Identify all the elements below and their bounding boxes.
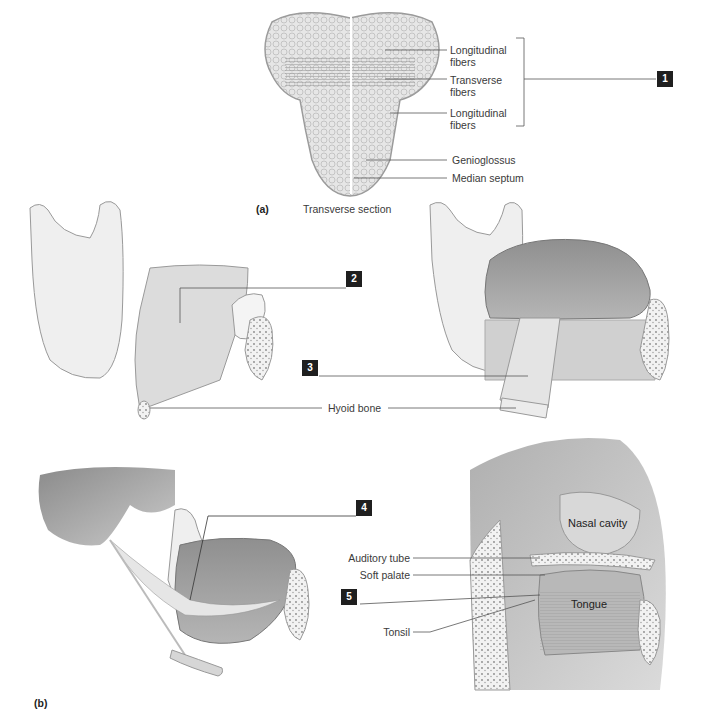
label-median-septum: Median septum <box>452 172 524 184</box>
callout-box-2: 2 <box>346 271 362 287</box>
part-label-a: (a) <box>256 203 269 215</box>
label-nasal-cavity: Nasal cavity <box>568 517 627 529</box>
label-genioglossus: Genioglossus <box>452 154 516 166</box>
transverse-section-drawing <box>265 13 439 196</box>
callout-box-5: 5 <box>341 589 357 605</box>
label-longitudinal-fibers-lower: Longitudinal fibers <box>450 107 507 131</box>
tongue-right-drawing <box>430 202 669 418</box>
label-soft-palate: Soft palate <box>340 569 410 581</box>
skull-base-left-drawing <box>39 467 309 676</box>
callout-box-4: 4 <box>356 500 372 516</box>
anatomy-illustration <box>0 0 703 720</box>
label-tongue: Tongue <box>571 598 607 610</box>
label-tonsil: Tonsil <box>340 626 410 638</box>
tongue-muscles-figure: Longitudinal fibers Transverse fibers Lo… <box>0 0 703 720</box>
label-auditory-tube: Auditory tube <box>340 552 410 564</box>
sagittal-section-drawing <box>470 438 666 690</box>
label-hyoid-bone: Hyoid bone <box>328 402 381 414</box>
mandible-left-drawing <box>30 201 273 419</box>
caption-transverse-section: Transverse section <box>303 203 391 215</box>
part-label-b: (b) <box>34 697 47 709</box>
label-transverse-fibers: Transverse fibers <box>450 74 502 98</box>
callout-box-3: 3 <box>302 360 318 376</box>
label-longitudinal-fibers-upper: Longitudinal fibers <box>450 44 507 68</box>
callout-box-1: 1 <box>657 71 673 87</box>
